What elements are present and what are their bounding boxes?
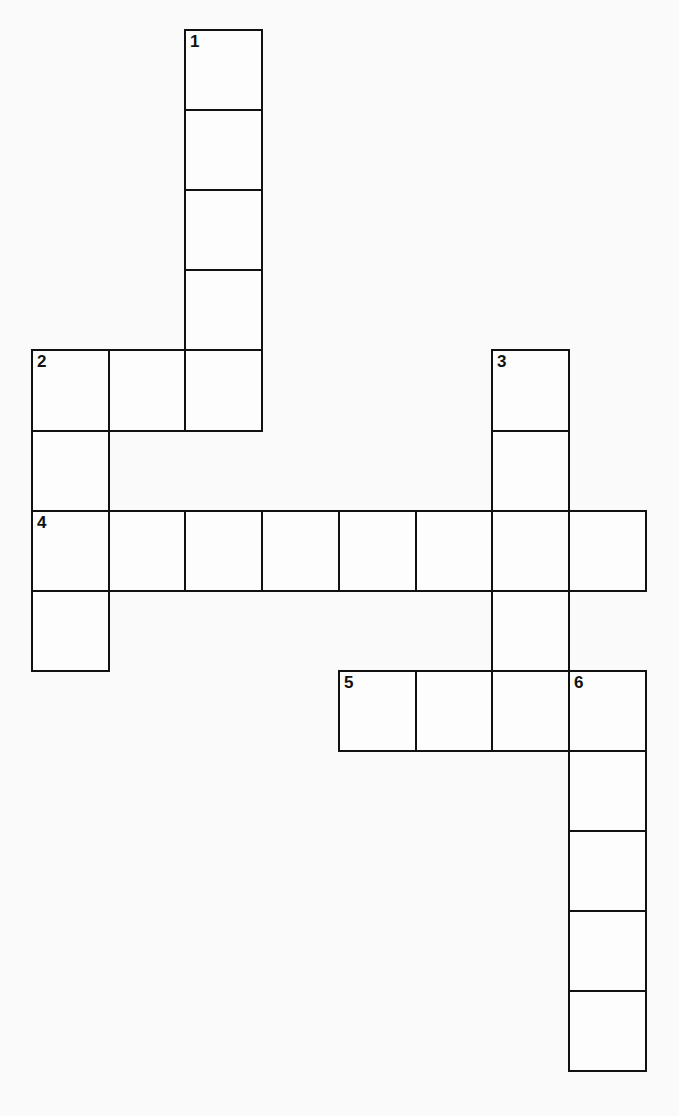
crossword-cell[interactable] [184,510,263,592]
crossword-cell[interactable]: 5 [338,670,417,752]
crossword-grid: 124356 [0,0,679,1116]
crossword-cell[interactable] [568,990,647,1072]
crossword-cell[interactable] [415,670,493,752]
clue-number: 6 [574,674,583,691]
crossword-cell[interactable] [261,510,340,592]
crossword-cell[interactable] [415,510,493,592]
crossword-cell[interactable] [108,510,186,592]
crossword-cell[interactable]: 1 [184,29,263,111]
crossword-cell[interactable]: 3 [491,349,570,432]
crossword-cell[interactable] [491,590,570,672]
crossword-cell[interactable]: 2 [31,349,110,432]
crossword-cell[interactable] [31,430,110,512]
crossword-cell[interactable] [491,430,570,512]
crossword-cell[interactable] [108,349,186,432]
clue-number: 4 [37,514,46,531]
crossword-cell[interactable] [184,269,263,351]
clue-number: 1 [190,33,199,50]
crossword-cell[interactable] [568,830,647,912]
crossword-cell[interactable] [568,910,647,992]
crossword-cell[interactable] [184,189,263,271]
crossword-cell[interactable] [568,510,647,592]
crossword-cell[interactable]: 4 [31,510,110,592]
crossword-cell[interactable] [31,590,110,672]
crossword-cell[interactable] [338,510,417,592]
crossword-cell[interactable]: 6 [568,670,647,752]
crossword-cell[interactable] [184,109,263,191]
crossword-cell[interactable] [568,750,647,832]
clue-number: 3 [497,353,506,370]
clue-number: 5 [344,674,353,691]
crossword-cell[interactable] [491,670,570,752]
clue-number: 2 [37,353,46,370]
crossword-cell[interactable] [491,510,570,592]
crossword-cell[interactable] [184,349,263,432]
